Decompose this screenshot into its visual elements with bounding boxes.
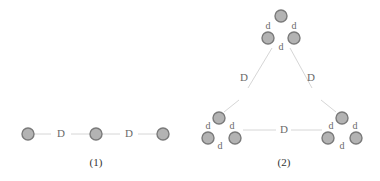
- edge-label-D: D: [125, 127, 133, 139]
- edge-label-d: d: [292, 20, 297, 31]
- edge-label-d: d: [279, 41, 284, 52]
- edge-label-D: D: [280, 123, 288, 135]
- edge-label-d: d: [353, 120, 358, 131]
- panel-2-triangle: D D D d d d d d d d d d: [202, 10, 362, 169]
- edge-label-d: d: [340, 140, 345, 151]
- edge: [248, 48, 272, 88]
- node: [229, 132, 241, 144]
- edge-label-d: d: [230, 120, 235, 131]
- node: [213, 112, 225, 124]
- node: [350, 132, 362, 144]
- edge-label-d: d: [329, 120, 334, 131]
- caption-2: (2): [278, 156, 291, 169]
- edge-label-D: D: [240, 71, 248, 83]
- cluster-bottom-left: d d d: [202, 112, 241, 151]
- node: [22, 128, 34, 140]
- caption-1: (1): [90, 156, 103, 169]
- edge-label-d: d: [266, 20, 271, 31]
- edge-label-D: D: [307, 71, 315, 83]
- node: [275, 10, 287, 22]
- edge: [321, 100, 336, 112]
- panel-1-chain: D D (1): [22, 127, 169, 169]
- edge-label-d: d: [218, 140, 223, 151]
- node: [336, 112, 348, 124]
- node: [288, 32, 300, 44]
- edge-label-D: D: [57, 127, 65, 139]
- diagram-canvas: D D (1) D D D d d d d d d: [0, 0, 380, 181]
- node: [202, 132, 214, 144]
- node: [90, 128, 102, 140]
- node: [157, 128, 169, 140]
- node: [262, 32, 274, 44]
- cluster-top: d d d: [262, 10, 300, 52]
- edge: [224, 100, 239, 112]
- node: [322, 132, 334, 144]
- cluster-bottom-right: d d d: [322, 112, 362, 151]
- edge-label-d: d: [206, 120, 211, 131]
